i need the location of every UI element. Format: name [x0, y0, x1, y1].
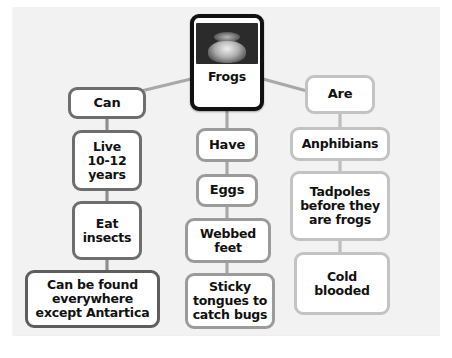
node-can-be-found-everywhere[interactable]: Can be found everywhere except Antartica	[25, 270, 160, 328]
frog-photo	[196, 23, 258, 64]
node-anphibians[interactable]: Anphibians	[290, 127, 390, 161]
node-label-tadpoles-before-frogs: Tadpoles before they are frogs	[297, 185, 383, 227]
node-live-10-12-years[interactable]: Live 10-12 years	[72, 130, 142, 191]
node-label-webbed-feet: Webbed feet	[197, 227, 259, 255]
node-cold-blooded[interactable]: Cold blooded	[294, 252, 390, 315]
node-eat-insects[interactable]: Eat insects	[72, 201, 142, 260]
node-eggs[interactable]: Eggs	[196, 174, 258, 207]
node-label-eat-insects: Eat insects	[80, 217, 135, 245]
node-label-cold-blooded: Cold blooded	[311, 270, 372, 298]
node-label-can: Can	[91, 96, 124, 111]
node-label-eggs: Eggs	[207, 183, 247, 198]
diagram-canvas: Frogs Can Live 10-12 years Eat insects C…	[0, 0, 452, 358]
node-label-can-be-found-everywhere: Can be found everywhere except Antartica	[33, 278, 153, 320]
node-frogs-root[interactable]: Frogs	[190, 14, 264, 111]
node-tadpoles-before-frogs[interactable]: Tadpoles before they are frogs	[290, 171, 390, 241]
node-label-anphibians: Anphibians	[299, 137, 382, 151]
node-webbed-feet[interactable]: Webbed feet	[185, 218, 271, 263]
node-label-sticky-tongues: Sticky tongues to catch bugs	[190, 280, 271, 322]
node-sticky-tongues[interactable]: Sticky tongues to catch bugs	[185, 273, 275, 329]
node-label-frogs: Frogs	[205, 70, 249, 84]
node-can[interactable]: Can	[68, 87, 146, 119]
node-have[interactable]: Have	[196, 128, 258, 162]
node-label-have: Have	[206, 138, 248, 153]
node-label-are: Are	[325, 87, 356, 102]
node-are[interactable]: Are	[305, 75, 375, 114]
node-label-live-10-12-years: Live 10-12 years	[85, 140, 130, 182]
